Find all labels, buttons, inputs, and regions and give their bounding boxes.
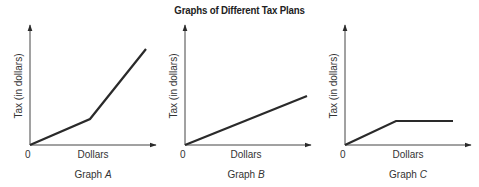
y-axis-label: Tax (in dollars): [328, 53, 339, 118]
origin-label: 0: [340, 149, 346, 160]
graph-caption: Graph B: [227, 169, 265, 180]
graph-c: Tax (in dollars) 0 Dollars Graph C: [328, 25, 471, 180]
graph-caption: Graph C: [389, 169, 428, 180]
y-axis-label: Tax (in dollars): [168, 53, 179, 118]
tax-line: [185, 96, 307, 145]
graph-caption: Graph A: [74, 169, 112, 180]
caption-letter: A: [104, 169, 112, 180]
caption-prefix: Graph: [227, 169, 255, 180]
x-axis-label: Dollars: [77, 149, 108, 160]
origin-label: 0: [180, 149, 186, 160]
y-axis-label: Tax (in dollars): [13, 53, 24, 118]
caption-letter: C: [420, 169, 428, 180]
tax-line: [30, 49, 146, 145]
x-axis-label: Dollars: [392, 149, 423, 160]
caption-prefix: Graph: [74, 169, 102, 180]
x-axis-label: Dollars: [230, 149, 261, 160]
graph-a: Tax (in dollars) 0 Dollars Graph A: [13, 25, 156, 180]
tax-plan-graphs: Tax (in dollars) 0 Dollars Graph A Tax (…: [0, 0, 479, 187]
origin-label: 0: [25, 149, 31, 160]
caption-prefix: Graph: [389, 169, 417, 180]
graph-b: Tax (in dollars) 0 Dollars Graph B: [168, 25, 311, 180]
tax-line: [345, 121, 453, 145]
caption-letter: B: [258, 169, 265, 180]
